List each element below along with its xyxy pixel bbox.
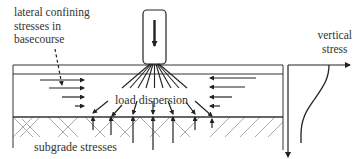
vertical-label-line1: vertical (318, 28, 352, 42)
load-block (143, 10, 166, 64)
vertical-stress-graph (288, 65, 350, 157)
load-dispersion-lines (122, 64, 187, 88)
lateral-label-line2: stresses in (14, 20, 90, 34)
subgrade-hatching (13, 117, 283, 137)
lateral-label-line1: lateral confining (14, 6, 90, 20)
lateral-arrows-right (210, 78, 256, 106)
vertical-stress-label: vertical stress (318, 28, 352, 56)
lateral-label-line3: basecourse (14, 33, 90, 47)
lateral-confining-label: lateral confining stresses in basecourse (14, 6, 90, 47)
subgrade-stresses-label: subgrade stresses (34, 140, 117, 155)
load-dispersion-label: load dispersion (115, 93, 188, 108)
vertical-label-line2: stress (318, 42, 352, 56)
